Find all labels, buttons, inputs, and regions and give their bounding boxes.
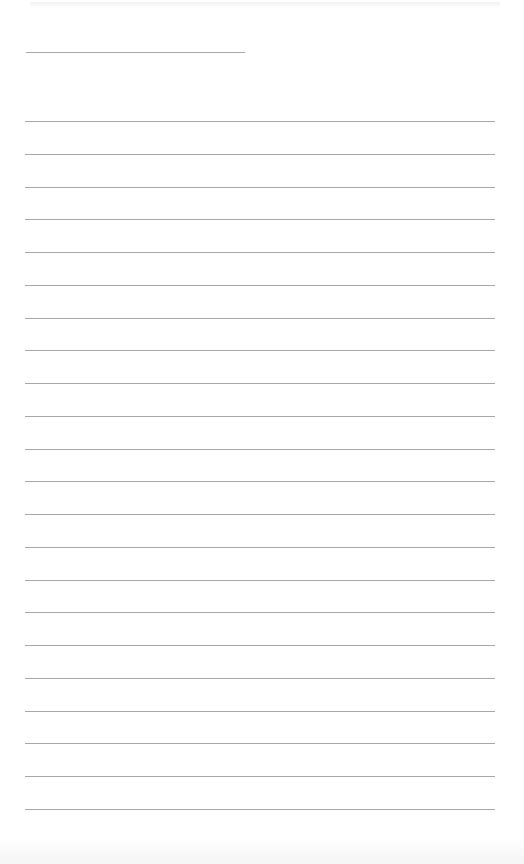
ruled-line: [25, 809, 495, 810]
show-through-top: [30, 2, 500, 8]
ruled-line: [25, 514, 495, 515]
ruled-line: [25, 547, 495, 548]
ruled-line: [25, 285, 495, 286]
ruled-line: [25, 612, 495, 613]
ruled-line: [25, 219, 495, 220]
ruled-line: [25, 318, 495, 319]
ruled-line: [25, 121, 495, 122]
lined-paper-sheet: [0, 0, 524, 864]
ruled-line: [25, 416, 495, 417]
ruled-line: [25, 776, 495, 777]
ruled-line: [25, 154, 495, 155]
ruled-line: [25, 711, 495, 712]
ruled-line: [25, 645, 495, 646]
ruled-line: [25, 252, 495, 253]
ruled-line: [25, 481, 495, 482]
ruled-line: [25, 383, 495, 384]
header-rule-line: [26, 52, 245, 53]
show-through-bottom: [0, 838, 524, 864]
ruled-line: [25, 350, 495, 351]
ruled-line: [25, 580, 495, 581]
ruled-line: [25, 678, 495, 679]
ruled-line: [25, 187, 495, 188]
ruled-line: [25, 743, 495, 744]
ruled-line: [25, 449, 495, 450]
